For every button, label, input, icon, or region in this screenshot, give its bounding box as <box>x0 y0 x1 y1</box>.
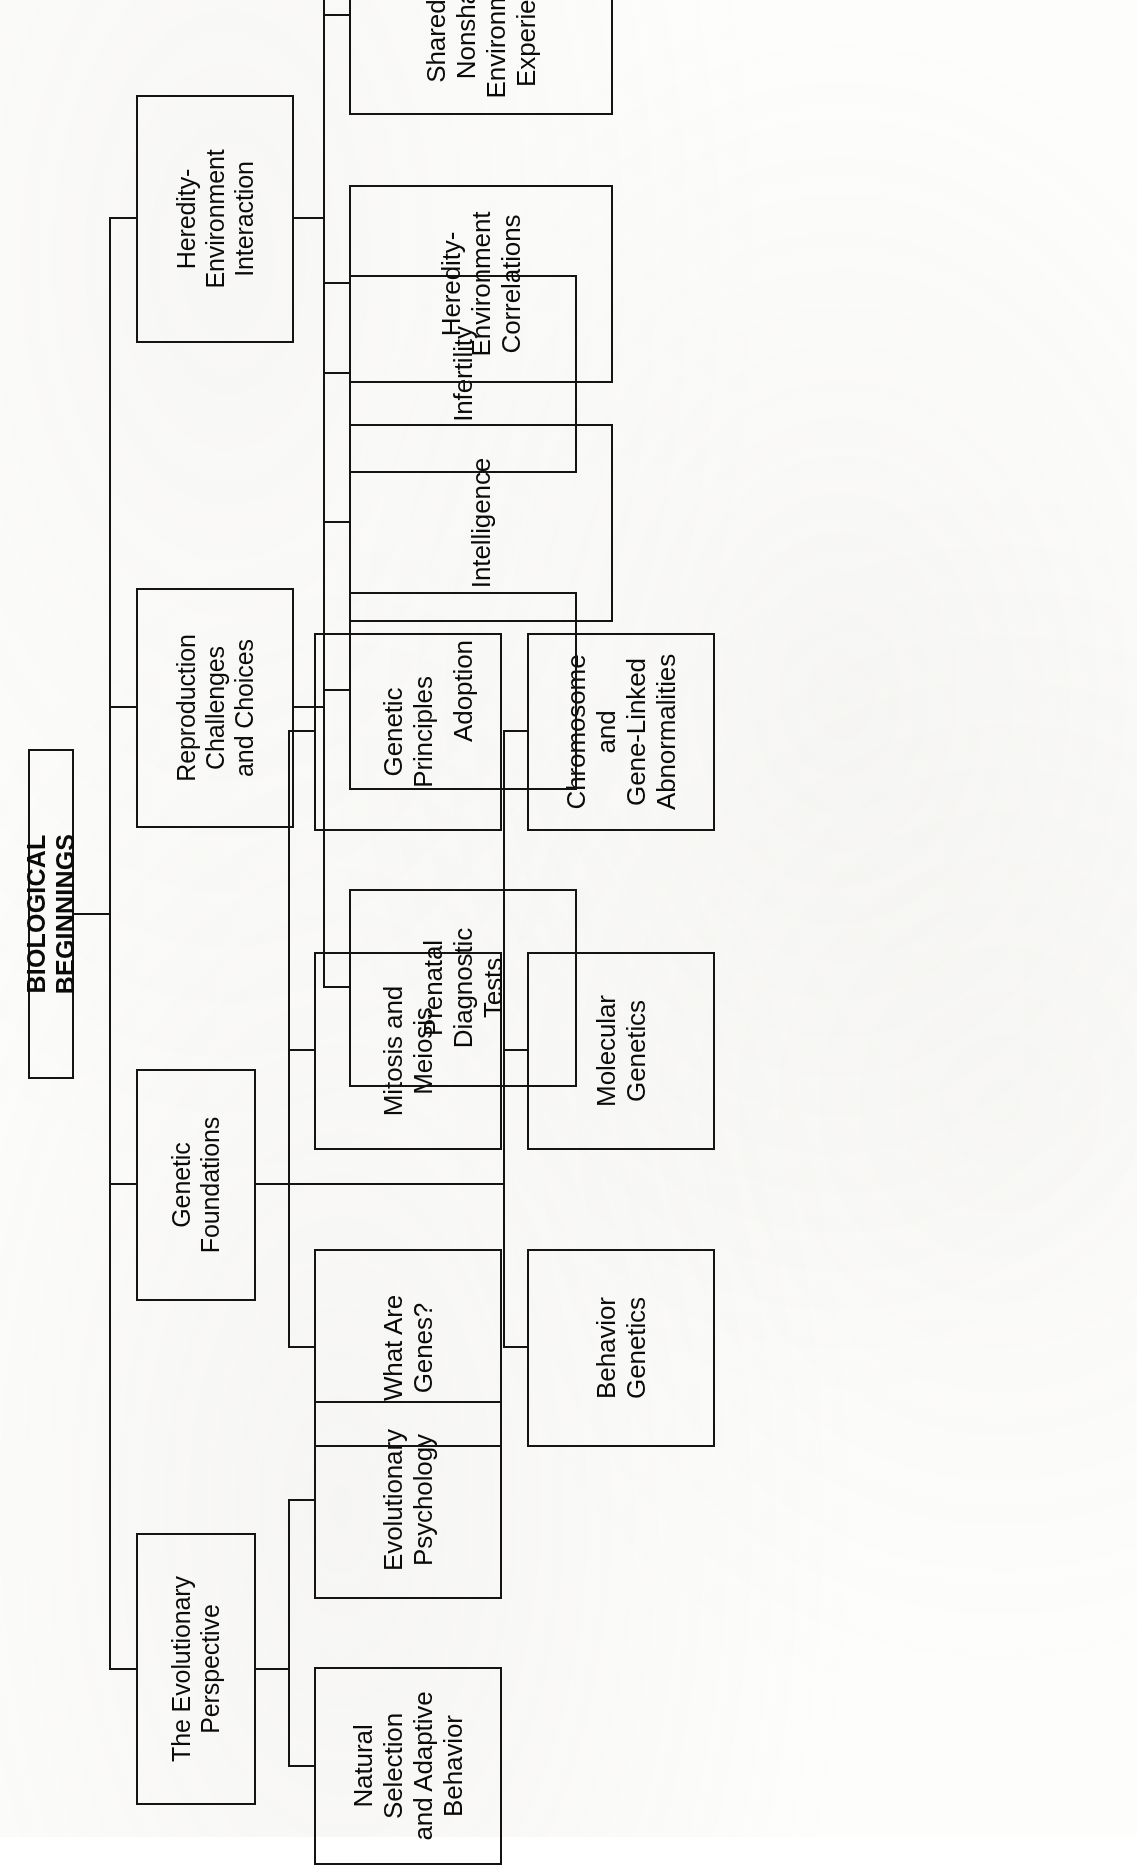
leaf-box-natural-selection[interactable]: Natural Selection and Adaptive Behavior <box>314 1667 502 1865</box>
leaf-box-prenatal-diagnostic-tests[interactable]: Prenatal Diagnostic Tests <box>349 889 577 1087</box>
branch-box-heredity-environment-interaction[interactable]: Heredity- Environment Interaction <box>136 95 294 343</box>
connector-branch3-child2 <box>323 689 350 691</box>
connector-title-to-spine <box>74 913 110 915</box>
connector-branch4-child3 <box>323 14 350 16</box>
branch-box-genetic-foundations[interactable]: Genetic Foundations <box>136 1069 256 1301</box>
connector-branch2-stem-lower <box>256 1183 504 1185</box>
connector-branch1-child1 <box>288 1765 315 1767</box>
connector-branch4-stem <box>294 217 324 219</box>
leaf-box-shared-nonshared-experiences[interactable]: Shared and Nonshared Environmental Exper… <box>349 0 613 115</box>
connector-branch1-child2 <box>288 1499 315 1501</box>
leaf-box-intelligence[interactable]: Intelligence <box>349 424 613 622</box>
connector-branch4-child1 <box>323 521 350 523</box>
connector-spine-to-branch-1 <box>109 1668 137 1670</box>
connector-spine-to-branch-4 <box>109 217 137 219</box>
connector-branch4-bus <box>323 0 325 523</box>
leaf-box-behavior-genetics[interactable]: Behavior Genetics <box>527 1249 715 1447</box>
connector-spine-to-branch-3 <box>109 706 137 708</box>
connector-branch1-stem <box>256 1668 289 1670</box>
connector-branch3-child3 <box>323 372 350 374</box>
chart-title-box: BIOLOGICAL BEGINNINGS <box>28 749 74 1079</box>
branch-box-reproduction-challenges[interactable]: Reproduction Challenges and Choices <box>136 588 294 828</box>
connector-branch3-stem <box>294 706 324 708</box>
connector-spine-to-branch-2 <box>109 1183 137 1185</box>
connector-main-spine <box>109 218 111 1670</box>
leaf-box-what-are-genes[interactable]: What Are Genes? <box>314 1249 502 1447</box>
connector-branch4-child2 <box>323 282 350 284</box>
connector-branch2-child2 <box>288 1049 315 1051</box>
connector-branch2-child4 <box>503 1346 528 1348</box>
leaf-box-heredity-environment-correlations[interactable]: Heredity- Environment Correlations <box>349 185 613 383</box>
connector-branch3-child1 <box>323 986 350 988</box>
connector-branch1-bus <box>288 1499 290 1767</box>
branch-box-evolutionary-perspective[interactable]: The Evolutionary Perspective <box>136 1533 256 1805</box>
connector-branch2-child1 <box>288 1346 315 1348</box>
